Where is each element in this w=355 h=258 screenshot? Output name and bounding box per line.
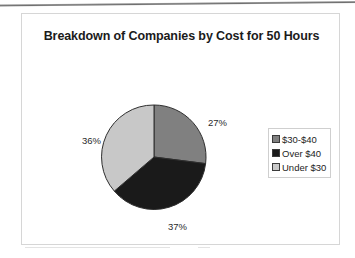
pie-slice-3040 (154, 105, 206, 164)
scan-smudge-left (25, 247, 170, 248)
legend-item-over40: Over $40 (272, 146, 326, 160)
legend-label-under30: Under $30 (282, 162, 326, 173)
pie-label-over40: 37% (168, 221, 187, 232)
legend-swatch-icon-under30 (272, 163, 280, 171)
chart-frame: Breakdown of Companies by Cost for 50 Ho… (21, 13, 340, 245)
legend-item-under30: Under $30 (272, 160, 326, 174)
legend-label-over40: Over $40 (282, 148, 321, 159)
legend-item-3040: $30-$40 (272, 132, 326, 146)
scan-smudge-right (198, 247, 210, 248)
legend-swatch-icon-over40 (272, 149, 280, 157)
scan-artifact-line (0, 1, 355, 7)
legend-label-3040: $30-$40 (282, 134, 317, 145)
pie-label-under30: 36% (82, 135, 101, 146)
chart-legend: $30-$40 Over $40 Under $30 (268, 128, 331, 178)
pie-svg (101, 104, 207, 210)
pie-chart (101, 104, 207, 210)
legend-swatch-icon-3040 (272, 135, 280, 143)
chart-title: Breakdown of Companies by Cost for 50 Ho… (40, 28, 323, 44)
pie-label-3040: 27% (208, 117, 227, 128)
